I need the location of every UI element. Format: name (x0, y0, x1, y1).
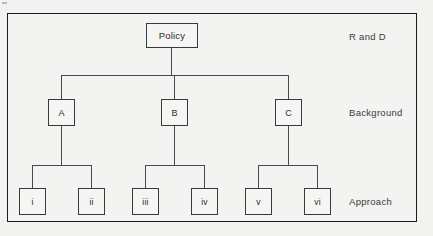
connector-bus-to-c (288, 75, 289, 99)
connector-bus-to-iii (145, 165, 146, 188)
tier-label-approach: Approach (349, 196, 392, 207)
node-iii[interactable]: iii (132, 188, 159, 215)
node-v-label: v (256, 197, 260, 207)
node-vi-label: vi (314, 197, 321, 207)
node-c[interactable]: C (275, 99, 302, 126)
connector-bus-to-b (174, 75, 175, 99)
node-a[interactable]: A (48, 99, 75, 126)
node-iii-label: iii (142, 197, 148, 207)
connector-root-stem (171, 48, 172, 75)
connector-a-children-bus (32, 165, 91, 166)
node-policy-label: Policy (159, 30, 186, 41)
node-policy[interactable]: Policy (146, 23, 198, 48)
tier-label-r-and-d: R and D (349, 31, 386, 42)
connector-bus-to-v (258, 165, 259, 188)
node-a-label: A (58, 108, 64, 118)
node-i-label: i (31, 197, 33, 207)
connector-bus-to-ii (91, 165, 92, 188)
connector-b-children-bus (145, 165, 204, 166)
connector-c-children-bus (258, 165, 317, 166)
node-ii-label: ii (89, 197, 93, 207)
node-b[interactable]: B (161, 99, 188, 126)
connector-bus-to-i (32, 165, 33, 188)
node-v[interactable]: v (245, 188, 272, 215)
node-b-label: B (171, 108, 177, 118)
connector-bus-to-iv (204, 165, 205, 188)
diagram-canvas: Policy A B C i ii iii iv v vi (0, 0, 433, 236)
node-iv-label: iv (201, 197, 208, 207)
tier-label-background: Background (349, 107, 403, 118)
connector-a-stem (61, 126, 62, 165)
connector-b-stem (174, 126, 175, 165)
connector-bus-to-a (61, 75, 62, 99)
node-iv[interactable]: iv (191, 188, 218, 215)
node-ii[interactable]: ii (78, 188, 105, 215)
scan-artifact (2, 2, 7, 4)
connector-bus-to-vi (317, 165, 318, 188)
node-c-label: C (285, 108, 292, 118)
node-i[interactable]: i (19, 188, 46, 215)
node-vi[interactable]: vi (304, 188, 331, 215)
diagram-frame: Policy A B C i ii iii iv v vi (7, 13, 417, 222)
connector-c-stem (288, 126, 289, 165)
